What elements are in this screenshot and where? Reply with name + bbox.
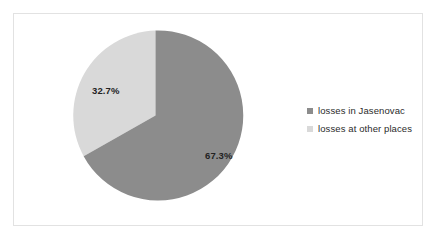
- pie-chart-plot-area: 32.7% 67.3% losses in Jasenovac losses a…: [14, 14, 424, 227]
- legend-swatch-icon-losses-at-other-places: [307, 126, 313, 132]
- pie-data-label-losses-in-jasenovac: 67.3%: [205, 150, 232, 161]
- chart-legend: losses in Jasenovac losses at other plac…: [307, 102, 427, 138]
- legend-label-losses-in-jasenovac: losses in Jasenovac: [318, 106, 405, 116]
- chart-frame: 32.7% 67.3% losses in Jasenovac losses a…: [13, 13, 423, 226]
- pie-chart-graphic: [63, 23, 248, 208]
- pie-data-label-losses-at-other-places: 32.7%: [92, 85, 119, 96]
- legend-swatch-icon-losses-in-jasenovac: [307, 108, 313, 114]
- legend-label-losses-at-other-places: losses at other places: [318, 124, 412, 134]
- legend-item-losses-at-other-places[interactable]: losses at other places: [307, 120, 427, 138]
- legend-item-losses-in-jasenovac[interactable]: losses in Jasenovac: [307, 102, 427, 120]
